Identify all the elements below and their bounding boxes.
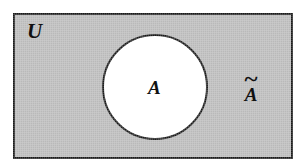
set-a-label: A — [148, 78, 161, 97]
tilde-accent-icon: ~ — [235, 74, 268, 85]
venn-diagram-figure: U A ~ A — [0, 0, 300, 167]
universal-set-label: U — [27, 21, 42, 42]
complement-of-a-label: ~ A — [238, 74, 264, 104]
